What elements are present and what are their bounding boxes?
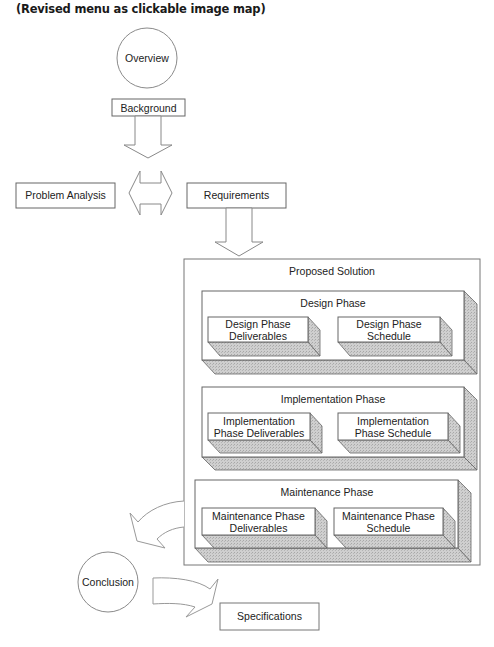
down-arrow-icon (124, 116, 172, 158)
overview-label: Overview (125, 52, 169, 64)
proposed-solution-label: Proposed Solution (289, 265, 375, 277)
maintenance-schedule-line1: Maintenance Phase (342, 510, 435, 522)
maintenance-deliverables-line2: Deliverables (230, 522, 288, 534)
conclusion-label: Conclusion (82, 576, 134, 588)
implementation-schedule-line2: Phase Schedule (355, 427, 432, 439)
maintenance-schedule-line2: Schedule (367, 522, 411, 534)
specifications-label: Specifications (237, 610, 302, 622)
problem-analysis-label: Problem Analysis (25, 189, 106, 201)
maintenance-deliverables-line1: Maintenance Phase (212, 510, 305, 522)
requirements-node[interactable]: Requirements (187, 183, 286, 208)
down-arrow-icon (215, 208, 263, 256)
conclusion-node[interactable]: Conclusion (78, 552, 138, 612)
maintenance-phase-label: Maintenance Phase (281, 486, 374, 498)
overview-node[interactable]: Overview (117, 28, 177, 88)
design-phase-deliverables-node[interactable]: Design Phase Deliverables (208, 317, 320, 356)
maintenance-phase-deliverables-node[interactable]: Maintenance Phase Deliverables (202, 508, 327, 548)
curved-arrow-icon (153, 578, 218, 617)
design-deliverables-line1: Design Phase (225, 318, 291, 330)
implementation-phase-deliverables-node[interactable]: Implementation Phase Deliverables (208, 413, 322, 453)
implementation-phase-schedule-node[interactable]: Implementation Phase Schedule (338, 413, 460, 453)
double-arrow-icon (129, 171, 172, 215)
maintenance-phase-schedule-node[interactable]: Maintenance Phase Schedule (334, 508, 455, 548)
design-phase-schedule-node[interactable]: Design Phase Schedule (338, 317, 452, 356)
problem-analysis-node[interactable]: Problem Analysis (16, 183, 115, 208)
implementation-deliverables-line2: Phase Deliverables (214, 427, 304, 439)
clickable-image-map: Overview Background Problem Analysis Req… (0, 0, 494, 647)
requirements-label: Requirements (204, 189, 269, 201)
design-phase-label: Design Phase (300, 297, 366, 309)
curved-arrow-icon (130, 501, 184, 548)
design-schedule-line1: Design Phase (356, 318, 422, 330)
specifications-node[interactable]: Specifications (220, 603, 319, 630)
background-node[interactable]: Background (112, 99, 185, 116)
design-schedule-line2: Schedule (367, 330, 411, 342)
implementation-deliverables-line1: Implementation (223, 415, 295, 427)
implementation-phase-label: Implementation Phase (281, 393, 386, 405)
implementation-schedule-line1: Implementation (357, 415, 429, 427)
design-deliverables-line2: Deliverables (229, 330, 287, 342)
background-label: Background (120, 102, 176, 114)
